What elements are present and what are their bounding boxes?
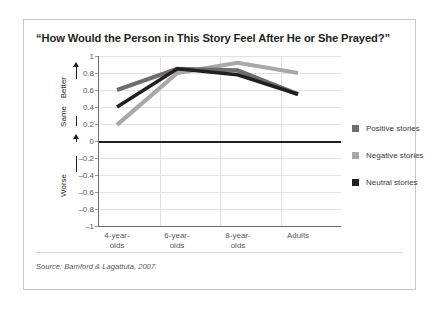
chart-legend: Positive stories Negative stories Neutra… [352, 115, 439, 196]
better-bar [76, 67, 77, 79]
legend-label-positive-stories: Positive stories [366, 124, 420, 133]
ytick-label--0.4: –0.4 [78, 171, 94, 180]
better-bar-lower [76, 116, 77, 126]
ytick-label-1: 1 [90, 52, 94, 61]
ytick-label-0.4: 0.4 [83, 103, 94, 112]
ytick-label-0: 0 [90, 137, 94, 146]
legend-swatch-negative-stories [352, 152, 359, 159]
legend-swatch-neutral-stories [352, 179, 359, 186]
series-lines [99, 56, 341, 226]
chart-title: “How Would the Person in This Story Feel… [36, 32, 396, 44]
ytick-label-0.2: 0.2 [83, 120, 94, 129]
ytick-label--1: –1 [85, 222, 94, 231]
ytick-label--0.2: –0.2 [78, 154, 94, 163]
ytick-label--0.8: –0.8 [78, 205, 94, 214]
xtick-label-adults: Adults [287, 231, 309, 241]
axis-label-same: Same [59, 106, 71, 127]
source-divider [36, 252, 403, 253]
xtick-label-4-year-olds: 4-year-olds [104, 231, 129, 250]
ytick-label--0.6: –0.6 [78, 188, 94, 197]
legend-label-negative-stories: Negative stories [366, 151, 423, 160]
xtick-label-8-year-olds: 8-year-olds [225, 231, 250, 250]
source-note: Source: Bamford & Lagattuta, 2007. [36, 262, 157, 271]
legend-item-positive-stories[interactable]: Positive stories [352, 115, 439, 142]
axis-label-worse: Worse [59, 174, 71, 197]
legend-item-negative-stories[interactable]: Negative stories [352, 142, 439, 169]
axis-label-better: Better [59, 77, 71, 98]
y-axis-annotations: Better Same Worse [59, 56, 83, 226]
same-bar [76, 139, 77, 142]
plot-area: 1 0.8 0.6 0.4 0.2 0 –0.2 –0.4 –0.6 –0.8 … [99, 56, 341, 226]
legend-item-neutral-stories[interactable]: Neutral stories [352, 169, 439, 196]
xtick-label-6-year-olds: 6-year-olds [164, 231, 189, 250]
legend-label-neutral-stories: Neutral stories [366, 178, 418, 187]
legend-swatch-positive-stories [352, 125, 359, 132]
ytick-label-0.8: 0.8 [83, 69, 94, 78]
ytick-label-0.6: 0.6 [83, 86, 94, 95]
chart-figure: “How Would the Person in This Story Feel… [23, 19, 416, 290]
worse-bar-upper [76, 156, 77, 172]
